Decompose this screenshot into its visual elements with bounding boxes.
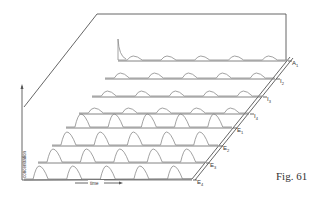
concentration-label: concentration: [22, 150, 27, 178]
initial-spike: [118, 39, 126, 60]
trace-A1: [118, 56, 287, 60]
row-label-E1: E1: [237, 127, 244, 135]
row-label-I4: I4: [254, 113, 259, 121]
diagram-3d-concentration-time: A1I2I3I4E1E2E3E4 concentration time: [0, 0, 323, 197]
row-label-E4: E4: [197, 179, 204, 187]
frame-diagonal-left: [24, 14, 97, 107]
trace-I2: [105, 73, 275, 78]
trace-E2: [52, 132, 218, 145]
figure-caption: Fig. 61: [276, 170, 307, 182]
row-label-E3: E3: [210, 162, 217, 170]
row-label-A1: A1: [292, 60, 299, 68]
trace-I3: [92, 91, 262, 96]
trace-I4: [79, 108, 249, 113]
trace-E3: [38, 149, 205, 162]
depth-axis-line-1: [192, 57, 290, 179]
row-label-I3: I3: [267, 96, 272, 104]
time-label: time: [90, 181, 99, 186]
arrow-up-icon: [21, 84, 24, 89]
trace-E4: [24, 166, 192, 179]
trace-E1: [66, 114, 232, 127]
arrow-right-icon: [119, 182, 123, 185]
row-label-E2: E2: [223, 145, 230, 153]
row-label-I2: I2: [280, 78, 285, 86]
